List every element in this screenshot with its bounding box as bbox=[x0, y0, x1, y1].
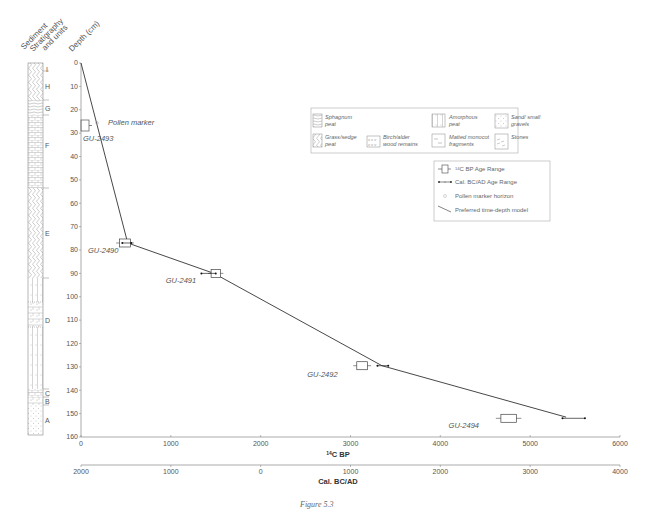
sample-gu-2490: GU-2490 bbox=[88, 239, 134, 255]
y-tick-label: 150 bbox=[66, 410, 78, 417]
x-tick-label: 4000 bbox=[433, 440, 449, 447]
legend-birch-1: Birch/alder bbox=[383, 134, 411, 140]
figure-caption: Figure 5.3 bbox=[300, 500, 333, 509]
unit-label-i: I bbox=[46, 66, 48, 73]
cal-bc-ad-axis: 2000100001000200030004000 bbox=[73, 465, 628, 475]
monocot-swatch-icon bbox=[432, 134, 445, 147]
y-tick-label: 110 bbox=[67, 316, 78, 323]
sphagnum-swatch-icon bbox=[313, 114, 322, 127]
legend-grass-1: Grass/sedge bbox=[325, 134, 357, 140]
y-tick-label: 100 bbox=[66, 293, 78, 300]
depth-axis: 0102030405060708090100110120130140150160 bbox=[66, 59, 81, 440]
stratigraphy-column: I H G F E D C B A bbox=[28, 63, 50, 435]
x-axis-title-c14: 14C BP bbox=[326, 450, 349, 459]
x2-tick-label: 0 bbox=[259, 468, 263, 475]
x2-tick-label: 1000 bbox=[343, 468, 359, 475]
y-tick-label: 10 bbox=[70, 83, 78, 90]
c14-range-box-icon bbox=[501, 414, 516, 422]
y-tick-label: 20 bbox=[70, 106, 78, 113]
unit-label-c: C bbox=[45, 390, 50, 397]
amorphous-swatch-icon bbox=[432, 114, 445, 127]
legend-sand-1: Sand/ small bbox=[511, 114, 541, 120]
unit-label-b: B bbox=[45, 398, 50, 405]
box-range-icon bbox=[442, 165, 448, 173]
legend-monocot-1: Matted monocot bbox=[449, 134, 490, 140]
sample-gu-2492: GU-2492 bbox=[307, 362, 389, 379]
sample-label: GU-2491 bbox=[166, 276, 196, 285]
x-tick-label: 0 bbox=[79, 440, 83, 447]
legend-model-line: Preferred time-depth model bbox=[455, 207, 528, 213]
x2-tick-label: 2000 bbox=[433, 468, 449, 475]
unit-label-d: D bbox=[45, 317, 50, 324]
legend-stones: Stones bbox=[511, 134, 529, 140]
x2-tick-label: 2000 bbox=[73, 468, 89, 475]
y-tick-label: 120 bbox=[66, 340, 78, 347]
unit-label-f: F bbox=[45, 142, 49, 149]
x-tick-label: 5000 bbox=[522, 440, 538, 447]
symbol-legend: 14C BP Age Range Cal. BC/AD Age Range Po… bbox=[434, 161, 550, 221]
y-tick-label: 80 bbox=[70, 246, 78, 253]
column-headers: Sediment Stratigraphy and units Depth (c… bbox=[19, 17, 102, 54]
x-tick-label: 6000 bbox=[612, 440, 628, 447]
sample-label-gu-2493: GU-2493 bbox=[83, 134, 114, 143]
legend-pollen-horizon: Pollen marker horizon bbox=[455, 193, 513, 199]
legend-amorphous-2: peat bbox=[448, 121, 460, 127]
unit-label-a: A bbox=[45, 417, 50, 424]
x-axis-title-cal: Cal. BC/AD bbox=[318, 477, 358, 486]
y-tick-label: 30 bbox=[70, 129, 78, 136]
legend-cal-range: Cal. BC/AD Age Range bbox=[455, 179, 518, 185]
x-tick-label: 1000 bbox=[163, 440, 179, 447]
pollen-marker: Pollen marker GU-2493 bbox=[81, 118, 155, 143]
x-tick-label: 2000 bbox=[253, 440, 269, 447]
y-tick-label: 160 bbox=[66, 433, 78, 440]
y-tick-label: 140 bbox=[66, 387, 78, 394]
pollen-marker-label: Pollen marker bbox=[108, 118, 155, 127]
y-tick-label: 90 bbox=[70, 270, 78, 277]
legend-grass-2: peat bbox=[324, 141, 336, 147]
c14-bp-axis: 0100020003000400050006000 bbox=[79, 435, 628, 447]
legend-monocot-2: fragments bbox=[449, 141, 474, 147]
legend-c14-bp: 14C BP Age Range bbox=[455, 166, 505, 173]
grass-swatch-icon bbox=[313, 134, 322, 147]
x2-tick-label: 4000 bbox=[612, 468, 628, 475]
unit-label-e: E bbox=[45, 230, 50, 237]
svg-text:v v v: v v v bbox=[368, 142, 376, 147]
y-tick-label: 0 bbox=[74, 59, 78, 66]
figure-canvas: Sediment Stratigraphy and units Depth (c… bbox=[0, 0, 650, 513]
y-tick-label: 60 bbox=[70, 200, 78, 207]
y-tick-label: 40 bbox=[70, 153, 78, 160]
sample-label: GU-2494 bbox=[449, 421, 479, 430]
sample-gu-2491: GU-2491 bbox=[166, 269, 224, 285]
y-tick-label: 50 bbox=[70, 176, 78, 183]
x2-tick-label: 1000 bbox=[163, 468, 179, 475]
y-tick-label: 70 bbox=[70, 223, 78, 230]
header-depth: Depth (cm) bbox=[67, 19, 102, 54]
y-tick-label: 130 bbox=[66, 363, 78, 370]
unit-label-h: H bbox=[45, 83, 50, 90]
x2-tick-label: 3000 bbox=[522, 468, 538, 475]
sand-swatch-icon bbox=[495, 114, 508, 128]
legend-amorphous-1: Amorphous bbox=[448, 114, 478, 120]
unit-label-g: G bbox=[45, 105, 50, 112]
legend-sphagnum-1: Sphagnum bbox=[325, 114, 352, 120]
sediment-legend: Sphagnum peat Amorphous peat Sand/ small… bbox=[311, 108, 541, 153]
c14-range-box-icon bbox=[357, 362, 368, 370]
legend-sphagnum-2: peat bbox=[324, 121, 336, 127]
legend-sand-2: gravels bbox=[511, 121, 529, 127]
legend-birch-2: wood remains bbox=[383, 141, 418, 147]
stones-swatch-icon bbox=[495, 134, 508, 149]
x-tick-label: 3000 bbox=[343, 440, 359, 447]
sample-label: GU-2492 bbox=[307, 370, 338, 379]
sample-label: GU-2490 bbox=[88, 246, 119, 255]
